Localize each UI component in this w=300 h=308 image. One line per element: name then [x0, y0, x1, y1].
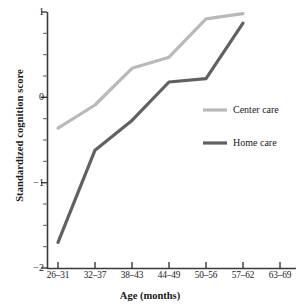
x-axis-title: Age (months): [0, 290, 300, 301]
y-tick-label-0: 0: [22, 92, 44, 102]
plot-area: [0, 0, 300, 308]
legend-label-center-care: Center care: [233, 104, 279, 115]
y-axis-tick-labels: 1 0 −1 −2: [0, 0, 44, 308]
x-major-ticks: [58, 262, 280, 268]
x-tick-label-1: 32–37: [84, 270, 107, 280]
x-tick-label-4: 50–56: [195, 270, 218, 280]
x-tick-label-6: 63–69: [269, 270, 292, 280]
x-tick-label-5: 57–62: [232, 270, 255, 280]
x-tick-label-0: 26–31: [47, 270, 70, 280]
y-tick-label-neg2: −2: [22, 263, 44, 273]
legend-label-home-care: Home care: [233, 137, 277, 148]
series-line-home-care: [58, 23, 243, 242]
y-tick-label-neg1: −1: [22, 178, 44, 188]
x-tick-label-3: 44–49: [158, 270, 181, 280]
chart-figure: Standardized cognition score 1 0 −1 −2: [0, 0, 300, 308]
y-tick-label-1: 1: [22, 7, 44, 17]
x-tick-label-2: 38–43: [121, 270, 144, 280]
